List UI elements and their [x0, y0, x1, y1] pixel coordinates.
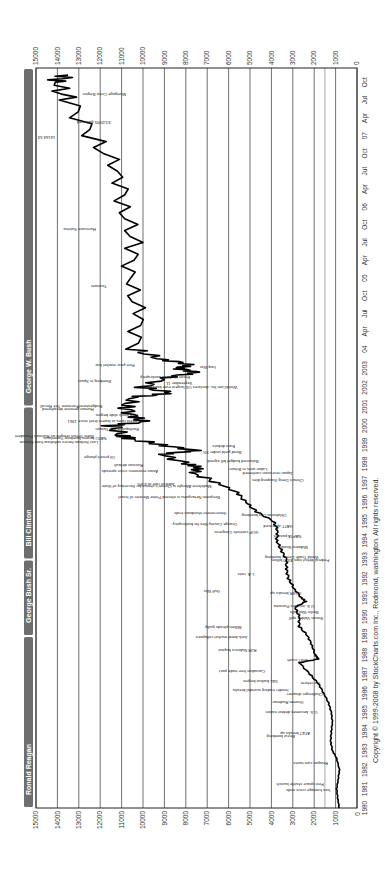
- event-annotation: Reagan cuts taxes: [293, 761, 328, 766]
- x-tick-label: 1997: [361, 475, 368, 490]
- y-tick-label-right: 2000: [310, 50, 317, 65]
- y-tick-label-left: 14000: [54, 811, 61, 829]
- y-tick-label-right: 9000: [161, 50, 168, 65]
- x-tick-label: Oct: [361, 291, 368, 301]
- y-tick-label-right: 0: [353, 61, 360, 65]
- x-tick-label: Apr: [361, 326, 369, 337]
- y-tick-label-left: 9000: [161, 811, 168, 826]
- event-annotation: Earthquake hits Taiwan: [95, 427, 139, 432]
- copyright-text: Copyright © 1999-2008 by StockCharts.com…: [372, 478, 380, 763]
- y-tick-label-right: 8000: [182, 50, 189, 65]
- x-tick-label: 1981: [361, 781, 368, 796]
- x-tick-label: 04: [361, 345, 368, 353]
- president-label: Ronald Reagan: [25, 744, 33, 795]
- x-tick-label: 1982: [361, 762, 368, 777]
- x-tick-label: 1984: [361, 724, 368, 739]
- event-annotation: Midwest floods: [280, 545, 308, 550]
- x-tick-label: Jul: [361, 238, 368, 247]
- x-tick-label: 1999: [361, 437, 368, 452]
- y-tick-label-right: 12000: [96, 47, 103, 65]
- y-tick-label-right: 4000: [268, 50, 275, 65]
- event-annotation: Exxon Valdez spill: [289, 616, 323, 621]
- y-tick-label-right: 5000: [246, 50, 253, 65]
- event-annotation: Canadian free trade pact: [218, 669, 265, 674]
- y-tick-label-left: 15000: [32, 811, 39, 829]
- y-tick-label-left: 5000: [246, 811, 253, 826]
- x-tick-label: Oct: [361, 219, 368, 229]
- y-tick-label-left: 12000: [96, 811, 103, 829]
- event-annotation: GATT approved: [263, 524, 293, 529]
- y-tick-label-right: 6000: [225, 50, 232, 65]
- x-tick-label: 07: [361, 132, 368, 140]
- event-annotation: Benjamin Netanyahu is elected Prime Mini…: [118, 495, 220, 500]
- event-annotation: Gulf War: [203, 589, 220, 594]
- x-tick-label: 2002: [361, 380, 368, 395]
- president-label: George W. Bush: [25, 339, 33, 393]
- event-annotation: Tech stock slide begins: [96, 413, 139, 418]
- event-annotation: Hurricane Katrina: [63, 227, 96, 232]
- x-tick-label: 1989: [361, 628, 368, 643]
- x-tick-label: 1994: [361, 533, 368, 548]
- event-annotation: Labor wins in Britain: [229, 467, 267, 472]
- y-tick-label-left: 4000: [268, 811, 275, 826]
- event-annotation: USSR breaks up: [270, 591, 302, 596]
- y-tick-label-right: 3000: [289, 50, 296, 65]
- event-annotation: U.S. invades Panama: [273, 604, 314, 609]
- y-tick-label-left: 7000: [203, 811, 210, 826]
- x-tick-label: 1988: [361, 647, 368, 662]
- event-annotation: RJR Nabisco buyout: [217, 648, 256, 653]
- y-tick-label-left: 1000: [332, 811, 339, 826]
- event-annotation: Orange County files for bankruptcy: [172, 522, 238, 527]
- x-tick-label: 2003: [361, 361, 368, 376]
- event-annotation: Berlin Wall falls: [290, 610, 318, 615]
- event-annotation: First space shuttle launch: [276, 782, 324, 787]
- event-annotation: Iraq War: [199, 365, 216, 370]
- event-annotation: Enron declares bankruptcy: [139, 375, 190, 380]
- y-tick-label-left: 8000: [182, 811, 189, 826]
- event-annotation: Interest rates at lowest level since 196…: [67, 419, 141, 424]
- y-tick-label-left: 10000: [139, 811, 146, 829]
- event-annotation: Five-year market low: [95, 363, 135, 368]
- event-annotation: L.A. riots: [238, 572, 255, 577]
- y-tick-label-right: 1000: [332, 50, 339, 65]
- y-tick-label-right: 15000: [32, 47, 39, 65]
- dow-chart: 0100010002000200030003000400040005000500…: [0, 0, 385, 881]
- event-annotation: Russian default: [113, 463, 143, 468]
- event-annotation: Bombing in Spain: [77, 379, 110, 384]
- y-tick-label-right: 7000: [203, 50, 210, 65]
- x-tick-label: 2001: [361, 399, 368, 414]
- y-tick-label-left: 2000: [310, 811, 317, 826]
- y-tick-label-left: 11000: [118, 811, 125, 829]
- event-annotation: Euro debuts: [212, 444, 235, 449]
- event-annotation: 3/1/2005 gathered: [76, 120, 111, 125]
- y-tick-label-right: 11000: [118, 47, 125, 65]
- event-annotation: Bridgestone/Firestone Tire Recall: [40, 404, 102, 409]
- event-annotation: S&L bailout begins: [243, 679, 278, 684]
- y-tick-label-left: 13000: [75, 811, 82, 829]
- x-tick-label: 1993: [361, 552, 368, 567]
- y-tick-label-right: 14000: [54, 47, 61, 65]
- x-tick-label: 06: [361, 203, 368, 211]
- event-annotation: Gramm-Rudman: [272, 700, 304, 705]
- x-tick-label: 1983: [361, 743, 368, 758]
- x-tick-label: Jul: [361, 309, 368, 318]
- x-tick-label: 1980: [361, 800, 368, 815]
- president-label: Bill Clinton: [25, 510, 32, 547]
- event-annotation: Bond yield under 5%: [203, 450, 242, 455]
- event-annotation: September 11: [166, 381, 193, 386]
- event-annotation: Tsunami: [91, 284, 107, 289]
- x-tick-label: 1990: [361, 609, 368, 624]
- x-tick-label: 1998: [361, 456, 368, 471]
- event-annotation: 1987 crash: [286, 658, 307, 663]
- event-annotation: Tax reform: [300, 681, 320, 686]
- x-tick-label: Jul: [361, 167, 368, 176]
- president-label: George Bush Sr.: [25, 568, 33, 623]
- x-tick-label: 1985: [361, 705, 368, 720]
- x-tick-label: Apr: [361, 254, 369, 265]
- y-tick-label-left: 6000: [225, 811, 232, 826]
- event-annotation: Milken pleads guilty: [204, 625, 241, 630]
- event-annotation: Asian economic crisis spreads: [102, 469, 158, 474]
- y-tick-label-right: 13000: [75, 47, 82, 65]
- x-tick-label: 05: [361, 274, 368, 282]
- event-annotation: NATO begins bombing Yugoslavia: [43, 436, 107, 441]
